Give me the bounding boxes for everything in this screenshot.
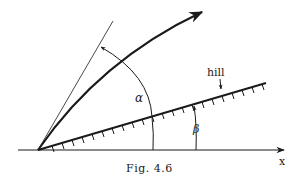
hill-pointer-arrow	[220, 79, 221, 89]
x-axis-label: x	[279, 155, 286, 168]
figure-4-6-diagram: x hill	[0, 0, 308, 181]
trajectory-curve	[38, 12, 202, 150]
alpha-label: α	[135, 91, 143, 105]
figure-caption: Fig. 4.6	[126, 162, 173, 175]
hill-label: hill	[207, 66, 225, 79]
alpha-angle-arc-lower	[152, 117, 153, 150]
beta-label: β	[192, 123, 199, 136]
